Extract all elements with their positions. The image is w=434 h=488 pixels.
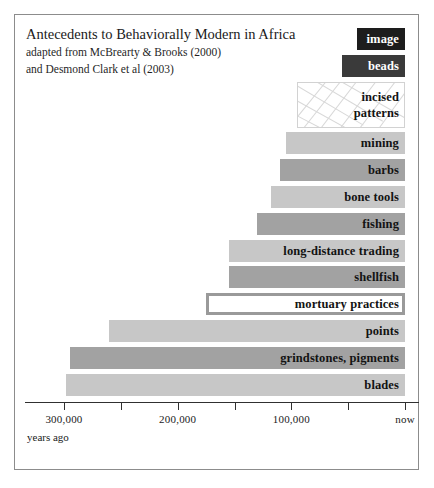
- bar-row[interactable]: long-distance trading: [229, 240, 405, 262]
- bar-label: barbs: [368, 159, 399, 181]
- axis-line: [25, 402, 419, 403]
- bar-row[interactable]: fishing: [257, 213, 405, 235]
- bar-row[interactable]: grindstones, pigments: [70, 347, 405, 369]
- axis-tick-label: 300,000: [45, 413, 82, 425]
- axis-tick-label: 100,000: [273, 413, 310, 425]
- axis-tick: [235, 402, 236, 410]
- bar-row[interactable]: mortuary practices: [206, 293, 405, 315]
- axis-tick-label: 200,000: [159, 413, 196, 425]
- axis-tick: [348, 402, 349, 410]
- axis-tick: [178, 402, 179, 410]
- axis-tick: [64, 402, 65, 410]
- bar-label: fishing: [362, 213, 399, 235]
- bar-row[interactable]: beads: [342, 55, 405, 77]
- bar-row[interactable]: mining: [286, 132, 405, 154]
- bar-row[interactable]: points: [109, 320, 405, 342]
- axis-caption: years ago: [27, 431, 69, 443]
- bar-label: mortuary practices: [295, 293, 399, 315]
- bar-label: beads: [368, 55, 399, 77]
- bar-label: mining: [361, 132, 399, 154]
- bar-fill: [109, 320, 405, 342]
- bar-label: bone tools: [344, 186, 399, 208]
- bar-label: image: [367, 28, 399, 50]
- axis-tick: [291, 402, 292, 410]
- x-axis: years ago 300,000200,000100,000now: [15, 402, 418, 462]
- bar-row[interactable]: bone tools: [271, 186, 405, 208]
- chart-frame: Antecedents to Behaviorally Modern in Af…: [14, 14, 419, 470]
- axis-tick-label: now: [395, 413, 415, 425]
- axis-tick: [121, 402, 122, 410]
- bar-row[interactable]: blades: [66, 374, 405, 396]
- bar-row[interactable]: image: [357, 28, 405, 50]
- bar-label: incisedpatterns: [354, 82, 399, 128]
- axis-tick: [405, 402, 406, 410]
- bar-fill: [66, 374, 405, 396]
- bar-row[interactable]: shellfish: [229, 266, 405, 288]
- bar-label: points: [366, 320, 399, 342]
- bar-row[interactable]: incisedpatterns: [297, 82, 405, 128]
- bar-label: blades: [364, 374, 399, 396]
- bar-label: grindstones, pigments: [280, 347, 399, 369]
- bar-label: shellfish: [354, 266, 399, 288]
- bar-label: long-distance trading: [283, 240, 399, 262]
- plot-area: imagebeadsincisedpatternsminingbarbsbone…: [15, 15, 418, 469]
- bar-row[interactable]: barbs: [280, 159, 405, 181]
